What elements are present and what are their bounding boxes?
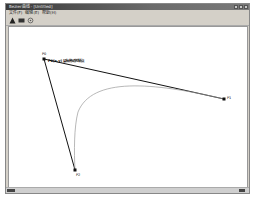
label-p1: P1 — [227, 96, 231, 100]
drawing-canvas[interactable]: P0 P1 P2 P0(x,y) 鼠标拖动控制点 — [8, 26, 248, 189]
control-point-p2[interactable] — [74, 169, 77, 172]
control-point-p1[interactable] — [223, 98, 226, 101]
status-text-left — [7, 189, 15, 192]
control-point-p0[interactable] — [43, 58, 46, 61]
bezier-drawing: P0 P1 P2 P0(x,y) 鼠标拖动控制点 — [2, 2, 257, 199]
status-text-right — [239, 189, 245, 192]
app-window: Bezier曲线 - [Untitled] 文件(F) 编辑(E) 帮助(H) — [5, 3, 250, 194]
label-p0: P0 — [42, 52, 46, 56]
label-p2: P2 — [76, 173, 80, 177]
status-bar — [6, 187, 249, 193]
control-line-p0-p2 — [44, 59, 75, 170]
canvas-annotation: P0(x,y) 鼠标拖动控制点 — [48, 58, 85, 63]
bezier-curve — [74, 86, 224, 170]
